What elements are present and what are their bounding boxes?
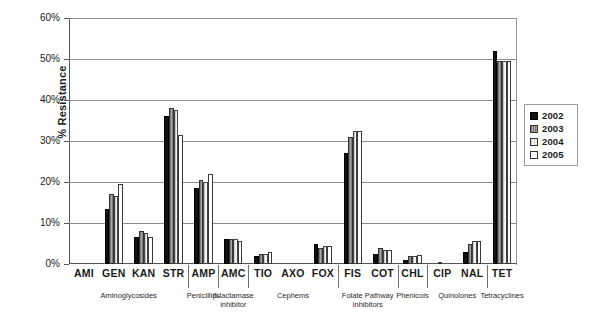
legend-swatch-2005-icon xyxy=(530,151,538,159)
legend-label-2004: 2004 xyxy=(542,136,564,147)
bar-str-2005[interactable] xyxy=(178,135,183,264)
bar-fox-2005[interactable] xyxy=(327,246,332,264)
y-tick-label: 20% xyxy=(16,177,60,187)
class-label-tetracyclines: Tetracyclines xyxy=(476,291,528,300)
y-tick-label: 50% xyxy=(16,54,60,64)
legend-item-2003[interactable]: 2003 xyxy=(530,122,573,135)
legend: 2002 2003 2004 2005 xyxy=(524,104,578,166)
x-label-tet: TET xyxy=(484,267,520,279)
bar-tet-2005[interactable] xyxy=(507,61,512,264)
bar-group-axo xyxy=(284,18,302,264)
bar-group-gen xyxy=(105,18,123,264)
bar-tio-2005[interactable] xyxy=(268,252,273,264)
bar-group-chl xyxy=(403,18,421,264)
legend-item-2005[interactable]: 2005 xyxy=(530,148,573,161)
antimicrobial-resistance-bar-chart: % Resistance 0%10%20%30%40%50%60% AMIGEN… xyxy=(0,0,592,322)
legend-item-2004[interactable]: 2004 xyxy=(530,135,573,148)
bar-kan-2005[interactable] xyxy=(148,237,153,264)
bars-layer xyxy=(69,18,517,264)
bar-group-fis xyxy=(344,18,362,264)
y-tick-label: 30% xyxy=(16,136,60,146)
y-tick-label: 40% xyxy=(16,95,60,105)
legend-item-2002[interactable]: 2002 xyxy=(530,109,573,122)
bar-cot-2005[interactable] xyxy=(387,250,392,264)
bar-gen-2005[interactable] xyxy=(118,184,123,264)
bar-group-ami xyxy=(75,18,93,264)
legend-swatch-2003-icon xyxy=(530,125,538,133)
bar-group-kan xyxy=(134,18,152,264)
bar-group-cot xyxy=(373,18,391,264)
legend-label-2005: 2005 xyxy=(542,149,564,160)
y-tick-label: 60% xyxy=(16,13,60,23)
bar-group-tet xyxy=(493,18,511,264)
bar-group-str xyxy=(164,18,182,264)
bar-group-cip xyxy=(433,18,451,264)
bar-amc-2005[interactable] xyxy=(238,241,243,264)
bar-group-tio xyxy=(254,18,272,264)
bar-group-amp xyxy=(194,18,212,264)
legend-label-2002: 2002 xyxy=(542,110,564,121)
bar-group-fox xyxy=(314,18,332,264)
bar-group-amc xyxy=(224,18,242,264)
bar-cip-2003[interactable] xyxy=(438,262,443,264)
legend-swatch-2002-icon xyxy=(530,112,538,120)
bar-nal-2005[interactable] xyxy=(477,241,482,264)
bar-fis-2005[interactable] xyxy=(357,131,362,264)
bar-amp-2005[interactable] xyxy=(208,174,213,264)
legend-swatch-2004-icon xyxy=(530,138,538,146)
y-tick-label: 10% xyxy=(16,218,60,228)
bar-chl-2005[interactable] xyxy=(417,255,422,264)
y-tick-label: 0% xyxy=(16,259,60,269)
bar-group-nal xyxy=(463,18,481,264)
legend-label-2003: 2003 xyxy=(542,123,564,134)
